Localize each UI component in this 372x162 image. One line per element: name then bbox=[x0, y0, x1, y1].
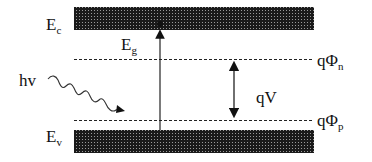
eg-label: Eg bbox=[121, 35, 137, 56]
hv-label: hv bbox=[19, 71, 37, 90]
electron-dot bbox=[157, 21, 163, 27]
valence-band bbox=[74, 130, 314, 153]
photon-wave-icon bbox=[48, 76, 119, 111]
quasi-fermi-n-label: qΦn bbox=[317, 51, 344, 72]
ev-label: Ev bbox=[46, 127, 62, 148]
ec-label: Ec bbox=[46, 15, 61, 36]
band-diagram: Ec Ev Eg hv qΦn qΦp qV bbox=[0, 0, 372, 162]
qv-label: qV bbox=[256, 88, 278, 107]
photon-arrowhead-icon bbox=[116, 105, 125, 113]
quasi-fermi-p-label: qΦp bbox=[317, 111, 344, 132]
conduction-band bbox=[74, 7, 314, 30]
